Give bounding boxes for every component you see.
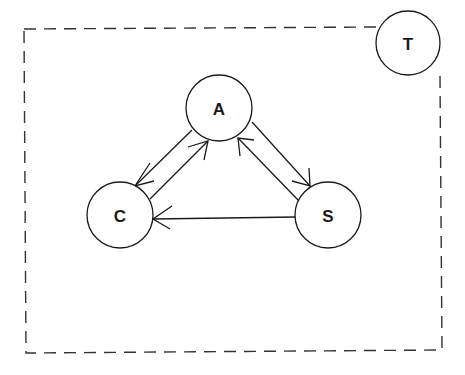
node-label-a: A [213,100,225,119]
edge-c-to-a [150,141,208,199]
arrowhead-icon [153,206,172,229]
node-c: C [87,182,153,248]
edge-a-to-s [252,122,310,186]
arrowhead-icon [135,163,154,186]
node-label-s: S [322,207,333,226]
node-label-c: C [114,207,126,226]
state-diagram: A C S T [0,0,465,375]
edge-a-to-c [135,130,192,186]
node-s: S [295,182,361,248]
dashed-boundary [24,27,442,353]
node-a: A [186,75,252,141]
edge-s-to-a [238,138,299,201]
node-t: T [376,11,440,75]
edge-s-to-c [153,217,296,219]
node-label-t: T [403,35,414,54]
